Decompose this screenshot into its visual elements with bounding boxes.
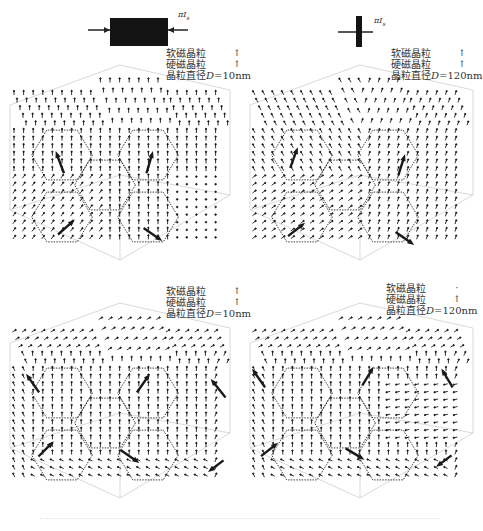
legend-hard-label: 硬磁晶粒 xyxy=(386,294,446,305)
large-arrow-icon: ↑ xyxy=(452,294,462,305)
legend-diameter-value: =120nm xyxy=(434,305,477,316)
magnetic-simulation-figure: πIs πIs 软磁晶粒↑ 硬磁晶粒↑ 晶粒直径D=10nm 软磁晶粒↑ 硬磁晶… xyxy=(0,0,483,531)
large-arrow-icon: ↑ xyxy=(457,59,467,70)
legend-diameter-value: =10nm xyxy=(214,308,251,319)
field-label-right: πIs xyxy=(374,16,386,27)
field-label-left: πIs xyxy=(178,10,190,21)
legend-diameter-label: 晶粒直径 xyxy=(386,305,426,316)
large-arrow-icon: ↑ xyxy=(232,59,242,70)
field-illustration-bar: πIs xyxy=(88,8,198,48)
legend-diameter-var: D xyxy=(206,70,214,81)
large-arrow-icon: ↑ xyxy=(232,297,242,308)
cross-icon xyxy=(330,8,400,48)
figure-caption xyxy=(40,518,440,525)
legend-top-right: 软磁晶粒↑ 硬磁晶粒↑ 晶粒直径D=120nm xyxy=(391,48,482,81)
legend-top-left: 软磁晶粒↑ 硬磁晶粒↑ 晶粒直径D=10nm xyxy=(166,48,251,81)
vector-field-plot xyxy=(240,283,483,513)
legend-diameter-label: 晶粒直径 xyxy=(166,70,206,81)
legend-soft-label: 软磁晶粒 xyxy=(391,48,451,59)
legend-soft-label: 软磁晶粒 xyxy=(166,286,226,297)
legend-diameter-value: =10nm xyxy=(214,70,251,81)
panel-bottom-right xyxy=(240,283,483,513)
legend-diameter-var: D xyxy=(431,70,439,81)
legend-hard-label: 硬磁晶粒 xyxy=(391,59,451,70)
small-arrow-icon: ↑ xyxy=(457,48,467,59)
small-arrow-icon: ↑ xyxy=(232,48,242,59)
legend-bottom-right: 软磁晶粒· 硬磁晶粒↑ 晶粒直径D=120nm xyxy=(386,283,477,316)
legend-diameter-var: D xyxy=(426,305,434,316)
legend-hard-label: 硬磁晶粒 xyxy=(166,59,226,70)
dot-icon: · xyxy=(452,283,462,294)
small-arrow-icon: ↑ xyxy=(232,286,242,297)
legend-soft-label: 软磁晶粒 xyxy=(386,283,446,294)
legend-diameter-label: 晶粒直径 xyxy=(391,70,431,81)
legend-soft-label: 软磁晶粒 xyxy=(166,48,226,59)
field-illustration-cross: πIs xyxy=(330,8,400,48)
legend-bottom-left: 软磁晶粒↑ 硬磁晶粒↑ 晶粒直径D=10nm xyxy=(166,286,251,319)
legend-hard-label: 硬磁晶粒 xyxy=(166,297,226,308)
legend-diameter-label: 晶粒直径 xyxy=(166,308,206,319)
legend-diameter-value: =120nm xyxy=(439,70,482,81)
legend-diameter-var: D xyxy=(206,308,214,319)
